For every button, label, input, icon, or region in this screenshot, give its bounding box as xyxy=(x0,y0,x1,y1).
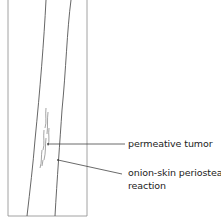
label-onion-skin-periosteal: onion-skin periosteal xyxy=(128,167,221,179)
leader-onion-skin xyxy=(58,160,122,174)
label-permeative-tumor: permeative tumor xyxy=(128,138,213,150)
image-frame xyxy=(8,0,87,216)
label-reaction: reaction xyxy=(128,180,166,192)
permeative-tumor-marks xyxy=(40,108,49,168)
bone-diagram xyxy=(0,0,221,222)
bone-right-cortex xyxy=(55,0,71,216)
bone-left-cortex xyxy=(27,0,46,216)
